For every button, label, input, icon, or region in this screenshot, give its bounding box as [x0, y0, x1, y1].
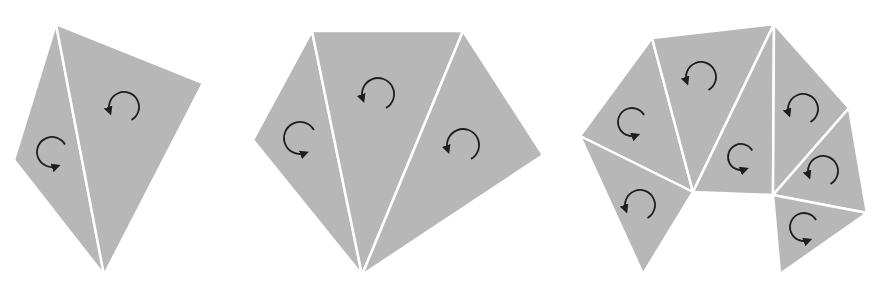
triangulation-diagram	[0, 0, 884, 293]
figures-layer	[14, 24, 867, 275]
figure-quadrilateral-two-triangles	[14, 24, 203, 275]
figure-pentagon-three-triangles	[253, 31, 543, 275]
figure-arc-polygon-seven-triangles	[580, 24, 867, 274]
